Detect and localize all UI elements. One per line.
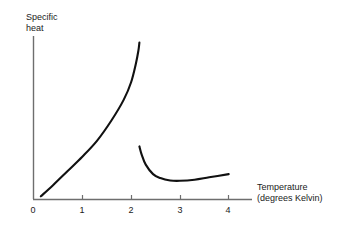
curve-below-lambda-point bbox=[41, 43, 140, 197]
specific-heat-chart: Specificheat Temperature(degrees Kelvin)… bbox=[0, 0, 346, 232]
curve-above-lambda-point bbox=[139, 146, 228, 180]
plot-area bbox=[0, 0, 346, 232]
x-axis-ticks bbox=[83, 195, 229, 199]
data-curves bbox=[41, 43, 229, 197]
